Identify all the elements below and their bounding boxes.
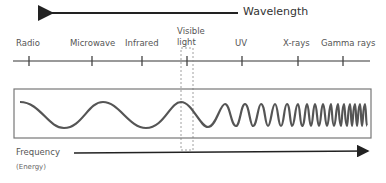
- band-label-gamma-rays: Gamma rays: [321, 38, 375, 48]
- band-label-radio: Radio: [16, 38, 40, 48]
- energy-label: (Energy): [16, 163, 46, 171]
- band-label-visible-light: Visible light: [177, 26, 205, 48]
- wavelength-label: Wavelength: [243, 5, 308, 18]
- em-wave: [20, 102, 367, 128]
- band-label-infrared: Infrared: [125, 38, 159, 48]
- band-label-uv: UV: [235, 38, 247, 48]
- frequency-arrow: [74, 151, 368, 153]
- frequency-label: Frequency: [16, 147, 60, 157]
- visible-line2: light: [177, 37, 205, 48]
- visible-line1: Visible: [177, 26, 205, 37]
- band-label-microwave: Microwave: [70, 38, 115, 48]
- band-label-x-rays: X-rays: [283, 38, 310, 48]
